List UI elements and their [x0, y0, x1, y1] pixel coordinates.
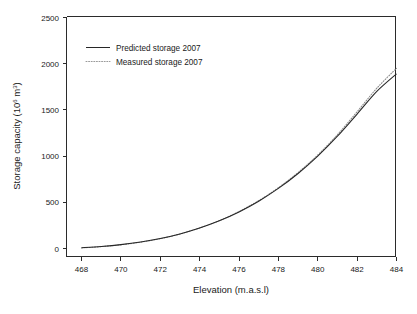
y-tick-label-1500: 1500: [41, 106, 59, 115]
x-axis-ticks: [82, 257, 397, 262]
legend-label-predicted: Predicted storage 2007: [116, 44, 201, 53]
x-tick-label-474: 474: [193, 265, 207, 274]
x-tick-label-468: 468: [75, 265, 89, 274]
x-tick-label-476: 476: [232, 265, 246, 274]
y-tick-label-1000: 1000: [41, 152, 59, 161]
x-axis-tick-labels: 468 470 472 474 476 478 480 482 484: [75, 265, 404, 274]
plot-axes: [67, 17, 396, 257]
storage-capacity-chart: 0 500 1000 1500 2000 2500 468 470 472 47…: [0, 0, 417, 314]
y-axis-title: Storage capacity (106 m3): [11, 82, 22, 190]
y-tick-label-2500: 2500: [41, 14, 59, 23]
x-tick-label-472: 472: [154, 265, 168, 274]
data-series-group: [82, 68, 397, 248]
x-tick-label-480: 480: [311, 265, 325, 274]
chart-legend: Predicted storage 2007 Measured storage …: [86, 44, 203, 67]
legend-label-measured: Measured storage 2007: [116, 58, 203, 67]
y-tick-label-0: 0: [55, 245, 60, 254]
x-tick-label-478: 478: [272, 265, 286, 274]
x-tick-label-470: 470: [114, 265, 128, 274]
series-predicted-storage-2007: [82, 74, 397, 248]
y-tick-label-2000: 2000: [41, 60, 59, 69]
y-tick-label-500: 500: [46, 198, 60, 207]
series-measured-storage-2007: [82, 68, 397, 248]
figure-caption-partial: [10, 302, 408, 311]
y-axis-tick-labels: 0 500 1000 1500 2000 2500: [41, 14, 59, 254]
y-axis-title-main: Storage capacity (10: [11, 103, 22, 190]
x-axis-title: Elevation (m.a.s.l): [193, 284, 269, 295]
y-axis-title-mid: m: [11, 89, 22, 100]
x-tick-label-482: 482: [350, 265, 364, 274]
y-axis-title-close: ): [11, 82, 22, 85]
y-axis-ticks: [63, 18, 67, 249]
x-tick-label-484: 484: [390, 265, 404, 274]
figure-container: 0 500 1000 1500 2000 2500 468 470 472 47…: [0, 0, 417, 314]
